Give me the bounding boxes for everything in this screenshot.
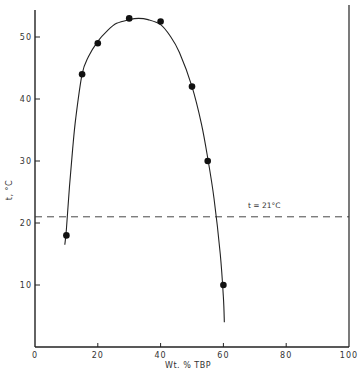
y-tick-label: 10 [20, 281, 32, 290]
data-points [63, 15, 227, 288]
data-point [79, 71, 86, 78]
y-tick-label: 50 [20, 33, 32, 42]
y-tick-label: 20 [20, 219, 32, 228]
x-tick-label: 100 [340, 351, 358, 360]
data-point [63, 232, 70, 239]
data-point [157, 18, 164, 25]
data-point [220, 282, 227, 289]
y-tick-label: 30 [20, 157, 32, 166]
axes [35, 5, 349, 347]
data-point [95, 40, 102, 47]
x-tick-label: 80 [280, 351, 292, 360]
phase-diagram-chart: 020406080100 1020304050 t = 21°C Wt. % T… [0, 0, 358, 373]
x-tick-label: 0 [32, 351, 38, 360]
y-ticks: 1020304050 [20, 33, 40, 290]
y-axis-label: t, °C [5, 180, 14, 200]
data-point [189, 83, 196, 90]
x-tick-label: 40 [155, 351, 167, 360]
x-ticks: 020406080100 [32, 343, 358, 360]
annotations: t = 21°C [248, 201, 281, 210]
y-tick-label: 40 [20, 95, 32, 104]
annotation-label: t = 21°C [248, 201, 281, 210]
x-axis-label: Wt. % TBP [165, 361, 211, 370]
data-point [204, 158, 211, 165]
x-tick-label: 60 [217, 351, 229, 360]
data-point [126, 15, 133, 22]
x-tick-label: 20 [92, 351, 104, 360]
fitted-curve [65, 18, 225, 322]
